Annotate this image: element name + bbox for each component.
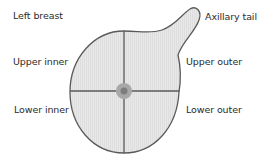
breast-outline: [70, 8, 200, 153]
label-lower-inner: Lower inner: [14, 104, 69, 115]
label-axillary-tail: Axillary tail: [205, 11, 257, 22]
nipple: [121, 88, 128, 95]
label-upper-outer: Upper outer: [186, 56, 242, 67]
label-upper-inner: Upper inner: [13, 56, 68, 67]
breast-outline-graphic: [0, 0, 265, 164]
diagram-title: Left breast: [13, 10, 63, 21]
breast-quadrant-diagram: Left breast Axillary tail Upper inner Up…: [0, 0, 265, 164]
label-lower-outer: Lower outer: [186, 104, 242, 115]
